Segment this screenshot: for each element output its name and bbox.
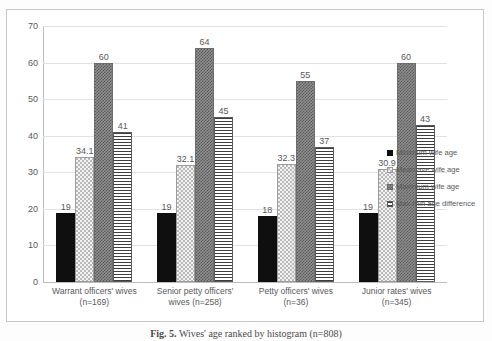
bar-value-label: 41 [118,121,128,131]
bar-light-dotted[interactable]: 32.3 [277,164,296,282]
legend-label: Max-min age difference [396,199,475,208]
legend-swatch-icon [387,167,393,173]
bar-group: 1932.16445 [145,26,246,282]
bar-solid-black[interactable]: 19 [157,213,176,282]
x-category-label: Petty officers' wives(n=36) [246,286,347,308]
bar-slot: 55 [296,26,315,282]
legend-item[interactable]: Max-min age difference [387,199,491,208]
bar-value-label: 64 [200,37,210,47]
bar-value-label: 60 [401,52,411,62]
legend-swatch-icon [387,150,393,156]
bar-value-label: 37 [319,136,329,146]
bar-slot: 19 [359,26,378,282]
bar-slot: 60 [94,26,113,282]
bar-value-label: 18 [262,205,272,215]
caption-prefix: Fig. 5. [150,328,176,339]
bar-slot: 32.3 [277,26,296,282]
x-category-line: (n=345) [348,297,445,308]
bar-solid-black[interactable]: 19 [359,213,378,282]
x-axis-category-labels: Warrant officers' wives(n=169)Senior pet… [44,286,447,308]
x-category-line: Warrant officers' wives [46,286,143,297]
bar-slot: 32.1 [176,26,195,282]
bar-dark-checkered[interactable]: 60 [94,63,113,282]
y-tick-label-60: 60 [28,58,38,68]
bar-solid-black[interactable]: 19 [56,213,75,282]
legend-label: Minimum wife age [396,148,457,157]
x-category-line: Petty officers' wives [248,286,345,297]
x-category-line: (n=36) [248,297,345,308]
bar-group: 1934.16041 [44,26,145,282]
y-tick-label-10: 10 [28,240,38,250]
x-category-line: (n=169) [46,297,143,308]
bar-group: 1832.35537 [246,26,347,282]
bar-horizontal-stripes[interactable]: 37 [315,147,334,282]
gridline-0 [43,282,447,283]
legend-item[interactable]: Minimum wife age [387,148,491,157]
bar-horizontal-stripes[interactable]: 41 [113,132,132,282]
bar-light-dotted[interactable]: 32.1 [176,165,195,282]
bar-value-label: 19 [61,202,71,212]
figure-caption: Fig. 5. Wives' age ranked by histogram (… [0,328,492,341]
legend-swatch-icon [387,201,393,207]
caption-text: Wives' age ranked by histogram (n=808) [179,328,342,339]
bar-value-label: 60 [99,52,109,62]
bar-dark-checkered[interactable]: 64 [195,48,214,282]
plot-wrapper: 010203040506070 1934.160411932.164451832… [37,20,447,310]
bar-horizontal-stripes[interactable]: 45 [214,117,233,282]
legend-swatch-icon [387,184,393,190]
legend-item[interactable]: Mean ave wife age [387,165,491,174]
x-category-line: Senior petty officers' [147,286,244,297]
bar-slot: 19 [157,26,176,282]
bar-value-label: 43 [420,114,430,124]
x-category-label: Junior rates' wives(n=345) [346,286,447,308]
bar-value-label: 19 [162,202,172,212]
bar-slot: 64 [195,26,214,282]
x-category-label: Senior petty officers'wives (n=258) [145,286,246,308]
bar-slot: 37 [315,26,334,282]
bar-slot: 41 [113,26,132,282]
bar-solid-black[interactable]: 18 [258,216,277,282]
legend-label: Mean ave wife age [396,165,460,174]
bar-light-dotted[interactable]: 34.1 [75,157,94,282]
x-category-line: wives (n=258) [147,297,244,308]
chart-legend: Minimum wife ageMean ave wife ageMaximum… [387,148,491,208]
bar-slot: 19 [56,26,75,282]
bar-value-label: 32.1 [177,154,195,164]
legend-item[interactable]: Maximum wife age [387,182,491,191]
y-tick-label-50: 50 [28,94,38,104]
chart-frame: 010203040506070 1934.160411932.164451832… [6,9,484,322]
legend-label: Maximum wife age [396,182,459,191]
y-tick-label-40: 40 [28,131,38,141]
bar-value-label: 19 [363,202,373,212]
bar-dark-checkered[interactable]: 55 [296,81,315,282]
bar-value-label: 45 [219,106,229,116]
figure-container: 010203040506070 1934.160411932.164451832… [0,0,492,341]
y-tick-label-0: 0 [33,277,38,287]
y-tick-label-70: 70 [28,21,38,31]
bar-slot: 45 [214,26,233,282]
x-category-label: Warrant officers' wives(n=169) [44,286,145,308]
bar-slot: 34.1 [75,26,94,282]
bar-value-label: 32.3 [278,153,296,163]
x-category-line: Junior rates' wives [348,286,445,297]
y-tick-label-30: 30 [28,167,38,177]
bar-slot: 18 [258,26,277,282]
bar-value-label: 34.1 [76,146,94,156]
y-tick-label-20: 20 [28,204,38,214]
bar-value-label: 55 [300,70,310,80]
